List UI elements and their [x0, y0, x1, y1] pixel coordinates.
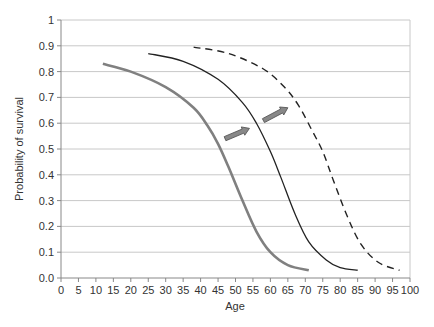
x-tick-label: 75 [317, 284, 329, 296]
x-tick-label: 0 [58, 284, 64, 296]
arrow-icon [261, 104, 290, 125]
y-tick-label: 0.6 [39, 117, 54, 129]
arrow-icon [223, 124, 251, 143]
y-tick-label: 1 [48, 14, 54, 26]
y-tick-label: 0.5 [39, 143, 54, 155]
gridlines [61, 20, 410, 278]
y-tick-label: 0.9 [39, 40, 54, 52]
x-tick-label: 100 [401, 284, 419, 296]
x-tick-label: 10 [90, 284, 102, 296]
x-tick-label: 30 [160, 284, 172, 296]
series-line-gray [103, 64, 309, 270]
y-tick-label: 0.3 [39, 195, 54, 207]
y-tick-label: 0.7 [39, 91, 54, 103]
x-tick-label: 5 [75, 284, 81, 296]
x-tick-label: 15 [107, 284, 119, 296]
x-tick-label: 45 [212, 284, 224, 296]
survival-chart: 0.00.10.20.30.40.50.60.70.80.91 05101520… [0, 0, 434, 327]
x-tick-label: 20 [125, 284, 137, 296]
x-tick-label: 95 [386, 284, 398, 296]
y-tick-label: 0.8 [39, 66, 54, 78]
x-tick-label: 90 [369, 284, 381, 296]
x-tick-label: 50 [229, 284, 241, 296]
x-tick-label: 25 [142, 284, 154, 296]
x-tick-label: 85 [352, 284, 364, 296]
x-tick-label: 35 [177, 284, 189, 296]
y-axis-title: Probability of survival [13, 97, 25, 201]
series-line-black [148, 54, 357, 271]
x-axis-title: Age [225, 300, 245, 312]
x-tick-label: 80 [334, 284, 346, 296]
x-axis: 0510152025303540455055606570758085909510… [58, 278, 419, 296]
x-tick-label: 65 [282, 284, 294, 296]
x-tick-label: 70 [299, 284, 311, 296]
y-tick-label: 0.2 [39, 220, 54, 232]
series-group [103, 47, 400, 270]
y-tick-label: 0.4 [39, 169, 54, 181]
x-tick-label: 55 [247, 284, 259, 296]
x-tick-label: 60 [264, 284, 276, 296]
y-axis: 0.00.10.20.30.40.50.60.70.80.91 [39, 14, 61, 284]
y-tick-label: 0.1 [39, 246, 54, 258]
y-tick-label: 0.0 [39, 272, 54, 284]
x-tick-label: 40 [194, 284, 206, 296]
